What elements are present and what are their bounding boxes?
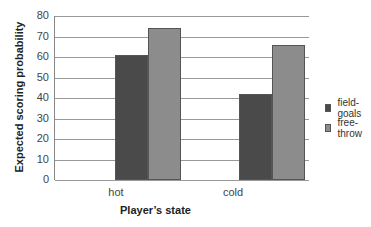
- y-tick-10: 10: [25, 153, 49, 165]
- plot-area: 01020304050607080: [54, 16, 309, 180]
- bar-cold-field-goals: [239, 94, 272, 180]
- legend-label-field-goals: field-goals: [337, 97, 371, 119]
- y-tick-40: 40: [25, 91, 49, 103]
- x-tick-cold: cold: [203, 186, 263, 198]
- y-tick-70: 70: [25, 30, 49, 42]
- gridline-60: [55, 57, 309, 58]
- y-tick-80: 80: [25, 9, 49, 21]
- legend-item-field-goals: field-goals: [325, 100, 371, 116]
- bar-hot-free-throw: [148, 28, 181, 180]
- legend-swatch-free-throw: [325, 124, 331, 132]
- y-tick-50: 50: [25, 71, 49, 83]
- y-tick-20: 20: [25, 132, 49, 144]
- x-axis-label: Player’s state: [120, 204, 191, 216]
- gridline-0: [55, 180, 309, 181]
- legend-label-free-throw: free-throw: [337, 117, 371, 139]
- y-tick-0: 0: [25, 173, 49, 185]
- bar-hot-field-goals: [115, 55, 148, 180]
- legend-swatch-field-goals: [325, 104, 331, 112]
- x-tick-hot: hot: [86, 186, 146, 198]
- y-tick-30: 30: [25, 112, 49, 124]
- gridline-50: [55, 78, 309, 79]
- y-tick-60: 60: [25, 50, 49, 62]
- gridline-80: [55, 16, 309, 17]
- legend: field-goals free-throw: [325, 100, 371, 140]
- gridline-70: [55, 37, 309, 38]
- legend-item-free-throw: free-throw: [325, 120, 371, 136]
- bar-cold-free-throw: [272, 45, 305, 180]
